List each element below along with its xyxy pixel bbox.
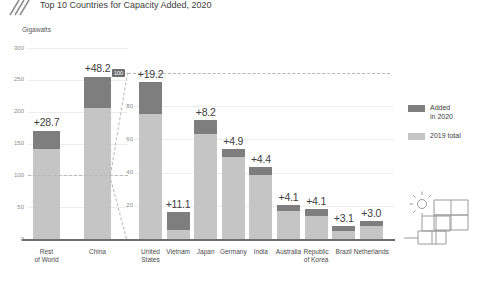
bar-segment-2019-total (332, 231, 355, 239)
bar-netherlands[interactable] (360, 221, 383, 239)
x-axis-category-label: China (68, 248, 127, 256)
bar-segment-added-2020 (33, 131, 60, 149)
bar-value-label: +4.9 (210, 135, 257, 147)
bar-value-label: +28.7 (20, 116, 73, 128)
legend-swatch-total_2019 (408, 133, 425, 140)
bar-segment-2019-total (84, 108, 111, 239)
y-gridline (28, 112, 128, 113)
bar-vietnam[interactable] (167, 212, 190, 239)
legend-label-total_2019: 2019 total (430, 132, 461, 141)
solar-panel-sun-icon (404, 190, 474, 248)
bar-segment-added-2020 (84, 77, 111, 108)
bar-segment-2019-total (167, 230, 190, 239)
y-axis-tick-label: 40 (111, 169, 133, 175)
y-axis-tick-label: 0 (2, 236, 24, 242)
bar-segment-added-2020 (167, 212, 190, 230)
y-axis-tick-label: 250 (2, 76, 24, 82)
bar-segment-2019-total (277, 211, 300, 239)
bar-segment-2019-total (249, 175, 272, 239)
bar-value-label: +19.2 (127, 68, 174, 80)
y-gridline (134, 139, 394, 140)
callout-diagonal-upper (110, 73, 128, 175)
bar-rest-of-world[interactable] (33, 131, 60, 239)
y-gridline (28, 48, 128, 49)
y-axis-tick-label: 200 (2, 108, 24, 114)
bar-segment-2019-total (194, 134, 217, 239)
y-axis-tick-label: 100 (2, 172, 24, 178)
y-axis-tick-label: 150 (2, 140, 24, 146)
bar-segment-2019-total (222, 157, 245, 239)
bar-australia[interactable] (277, 205, 300, 239)
bar-segment-2019-total (33, 149, 60, 239)
bar-china[interactable] (84, 77, 111, 239)
x-axis-baseline (127, 239, 395, 241)
bar-value-label: +4.4 (237, 153, 284, 165)
y-gridline (28, 80, 128, 81)
y-gridline (134, 106, 394, 107)
bar-value-label: +3.0 (348, 207, 395, 219)
bar-value-label: +8.2 (182, 106, 229, 118)
bar-value-label: +4.1 (293, 195, 340, 207)
bar-brazil[interactable] (332, 226, 355, 239)
bar-segment-2019-total (360, 226, 383, 239)
bar-segment-added-2020 (194, 120, 217, 134)
y-axis-tick-label: 60 (111, 136, 133, 142)
y-axis-tick-label: 50 (2, 204, 24, 210)
y-axis-tick-label-highlighted: 100 (112, 69, 125, 77)
legend-label-added_2020: Addedin 2020 (430, 104, 453, 121)
callout-base-dashed-line (28, 175, 128, 176)
bar-segment-added-2020 (360, 221, 383, 226)
y-axis-tick-label: 300 (2, 45, 24, 51)
x-axis-baseline (22, 239, 134, 241)
bar-segment-added-2020 (332, 226, 355, 231)
y-axis-tick-label: 20 (111, 202, 133, 208)
bar-segment-added-2020 (249, 167, 272, 174)
bar-india[interactable] (249, 167, 272, 239)
legend-swatch-added_2020 (408, 105, 425, 112)
bar-segment-2019-total (139, 114, 162, 239)
bar-united-states[interactable] (139, 82, 162, 239)
x-axis-category-label: Netherlands (347, 248, 396, 256)
chart-page: Solar PV Capacity Additions Top 10 Count… (0, 0, 480, 281)
bar-segment-added-2020 (139, 82, 162, 114)
